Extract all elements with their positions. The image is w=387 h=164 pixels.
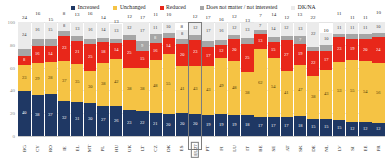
x-label-cell-uk[interactable]: UK: [123, 137, 135, 164]
bar-segment-unchanged-es: 41: [176, 66, 188, 113]
bar-column-bg[interactable]: 242482340: [18, 22, 30, 136]
bar-column-cy[interactable]: 1616162938: [32, 22, 44, 136]
bar-column-fr[interactable]: 1010245612: [372, 22, 384, 136]
bar-column-mt[interactable]: 1616253030: [84, 22, 96, 136]
x-label-cell-at[interactable]: AT: [281, 137, 293, 164]
bar-column-pl[interactable]: 1414183827: [97, 22, 109, 136]
bar-segment-dk_na-bg: 24: [18, 22, 30, 49]
x-label-cell-it[interactable]: IT: [241, 137, 253, 164]
segment-value-label: 54: [363, 90, 368, 95]
bar-top-label-hu: 13: [110, 19, 122, 24]
segment-value-label: 20: [180, 122, 185, 127]
legend-item-reduced[interactable]: Reduced: [160, 5, 186, 11]
bar-column-it[interactable]: 1313253818: [241, 22, 253, 136]
bar-segment-increased-pl: 27: [97, 106, 109, 136]
x-label-cell-ie[interactable]: IE: [58, 137, 70, 164]
bar-column-ee[interactable]: 1111205412: [359, 22, 371, 136]
x-axis-label-ee: EE: [363, 145, 368, 151]
bar-column-eu27[interactable]: 1212234320: [189, 22, 201, 136]
bar-column-lu[interactable]: 1212204819: [228, 22, 240, 136]
bar-segment-reduced-el: 21: [71, 41, 83, 64]
bar-top-label-pl: 14: [97, 15, 109, 20]
x-axis-label-cy: CY: [35, 145, 40, 152]
segment-value-label: 40: [22, 111, 27, 116]
x-label-cell-cz[interactable]: CZ: [150, 137, 162, 164]
bar-column-de[interactable]: 2222223815: [307, 22, 319, 136]
legend-item-unchanged[interactable]: Unchanged: [113, 5, 145, 11]
bar-column-at[interactable]: 1212274117: [281, 22, 293, 136]
bar-column-nl[interactable]: 1010174315: [320, 22, 332, 136]
bar-column-ro[interactable]: 1515142837: [45, 22, 57, 136]
segment-value-label: 11: [153, 26, 157, 31]
segment-value-label: 19: [298, 52, 303, 57]
segment-value-label: 18: [298, 124, 303, 129]
bar-segment-increased-lv: 15: [333, 120, 345, 136]
x-label-cell-be[interactable]: BE: [254, 137, 266, 164]
bar-column-lv[interactable]: 1111235315: [333, 22, 345, 136]
segment-value-label: 23: [22, 76, 27, 81]
bar-column-cz[interactable]: 11118164821: [150, 22, 162, 136]
x-label-cell-de[interactable]: DE: [307, 137, 319, 164]
segment-value-label: 38: [311, 95, 316, 100]
bar-segment-reduced-si: 19: [346, 39, 358, 60]
bar-column-se[interactable]: 1414155417: [268, 22, 280, 136]
bar-column-hu[interactable]: 1313144226: [110, 22, 122, 136]
bar-column-es[interactable]: 88204120: [176, 22, 188, 136]
bar-column-lt[interactable]: 17179153822: [136, 22, 148, 136]
bar-column-el[interactable]: 1313213531: [71, 22, 83, 136]
bar-segment-dk_na-eu27: 12: [189, 22, 201, 35]
x-label-cell-pl[interactable]: PL: [97, 137, 109, 164]
bar-column-be[interactable]: 77136217: [254, 22, 266, 136]
bar-column-si[interactable]: 1111195512: [346, 22, 358, 136]
bar-top-label-fr: 10: [372, 10, 384, 15]
stacked-bar-chart: IncreasedUnchangedReducedDoes not matter…: [0, 0, 387, 164]
bar-segment-unchanged-hu: 42: [110, 59, 122, 107]
x-label-cell-bg[interactable]: BG: [18, 137, 30, 164]
bar-segment-dk_na-si: 11: [346, 22, 358, 34]
bar-segment-increased-ro: 37: [45, 94, 57, 136]
x-label-cell-se[interactable]: SE: [268, 137, 280, 164]
bar-segment-reduced-cz: 16: [150, 43, 162, 61]
segment-value-label: 49: [219, 84, 224, 89]
x-label-cell-fr[interactable]: FR: [372, 137, 384, 164]
segment-value-label: 23: [62, 46, 67, 51]
x-label-cell-fi[interactable]: FI: [215, 137, 227, 164]
bar-column-sk[interactable]: 13137194718: [294, 22, 306, 136]
x-label-cell-es[interactable]: ES: [176, 137, 188, 164]
segment-value-label: 8: [181, 32, 183, 37]
bar-segment-dk_na-fr: 10: [372, 22, 384, 33]
x-label-cell-ro[interactable]: RO: [45, 137, 57, 164]
x-label-cell-el[interactable]: EL: [71, 137, 83, 164]
segment-value-label: 24: [376, 48, 381, 53]
legend-item-dk_na[interactable]: DK/NA: [291, 5, 315, 11]
bar-column-uk[interactable]: 1212253823: [123, 22, 135, 136]
bar-column-fi[interactable]: 1616124919: [215, 22, 227, 136]
x-label-cell-si[interactable]: SI: [346, 137, 358, 164]
x-label-cell-ee[interactable]: EE: [359, 137, 371, 164]
x-label-cell-sk[interactable]: SK: [294, 137, 306, 164]
bar-segment-increased-pt: 19: [202, 115, 214, 136]
x-label-cell-lu[interactable]: LU: [228, 137, 240, 164]
x-label-cell-lt[interactable]: LT: [136, 137, 148, 164]
bar-segment-unchanged-nl: 43: [320, 70, 332, 119]
segment-value-label: 54: [271, 86, 276, 91]
bar-segment-unchanged-bg: 23: [18, 65, 30, 91]
bar-segment-unchanged-be: 62: [254, 49, 266, 118]
bar-segment-increased-fr: 12: [372, 123, 384, 136]
x-label-cell-eu27[interactable]: EU27: [189, 137, 201, 164]
x-label-cell-mt[interactable]: MT: [84, 137, 96, 164]
bar-column-pt[interactable]: 1717174319: [202, 22, 214, 136]
bar-top-label-bg: 24: [18, 15, 30, 20]
x-label-cell-hu[interactable]: HU: [110, 137, 122, 164]
bar-column-ie[interactable]: 88233732: [58, 22, 70, 136]
bar-column-dk[interactable]: 1010145520: [163, 22, 175, 136]
bar-segment-reduced-lu: 20: [228, 39, 240, 61]
x-label-cell-dk[interactable]: DK: [163, 137, 175, 164]
legend-item-does_not_matter[interactable]: Does not matter / not interested: [200, 5, 278, 11]
segment-value-label: 14: [114, 48, 119, 53]
x-label-cell-pt[interactable]: PT: [202, 137, 214, 164]
legend-swatch-unchanged-icon: [113, 6, 117, 10]
x-label-cell-nl[interactable]: NL: [320, 137, 332, 164]
x-label-cell-cy[interactable]: CY: [32, 137, 44, 164]
x-label-cell-lv[interactable]: LV: [333, 137, 345, 164]
